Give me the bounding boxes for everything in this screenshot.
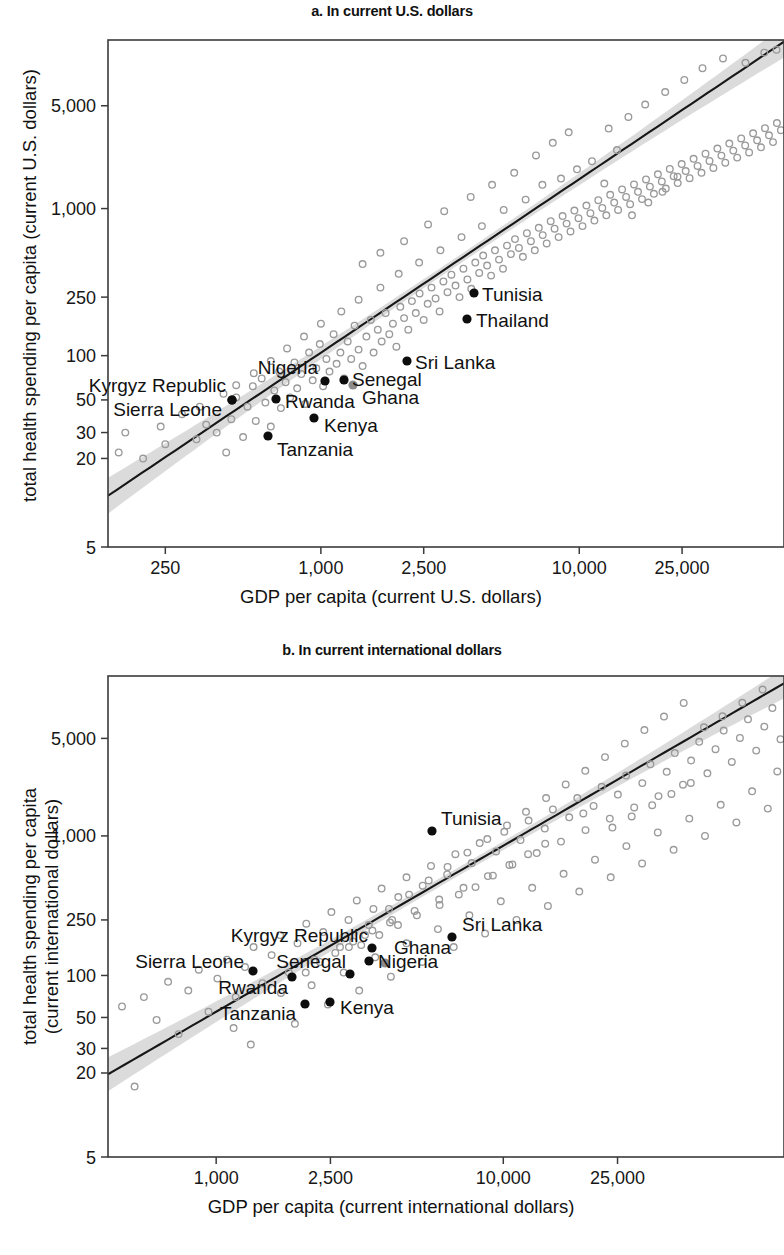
data-point — [639, 196, 646, 203]
data-point — [460, 265, 467, 272]
data-point — [268, 423, 275, 430]
data-point — [686, 175, 693, 182]
y-tick-label: 250 — [66, 288, 96, 308]
data-point — [543, 795, 550, 802]
data-point — [699, 65, 706, 72]
data-point — [655, 829, 662, 836]
data-point — [488, 272, 495, 279]
data-point — [680, 700, 687, 707]
data-point — [706, 158, 713, 165]
data-point — [376, 932, 383, 939]
data-point — [386, 331, 393, 338]
data-point — [508, 251, 515, 258]
data-point — [472, 884, 479, 891]
data-point — [647, 183, 654, 190]
data-point — [730, 147, 737, 154]
data-point — [681, 77, 688, 84]
data-point — [476, 840, 483, 847]
data-point — [516, 245, 523, 252]
x-tick-label: 2,500 — [401, 558, 446, 578]
data-point — [580, 810, 587, 817]
data-point — [734, 154, 741, 161]
data-point — [253, 418, 260, 425]
data-point — [318, 320, 325, 327]
data-point — [533, 152, 540, 159]
data-point — [674, 180, 681, 187]
data-point — [484, 836, 491, 843]
point-label-rwanda: Rwanda — [218, 977, 288, 998]
data-point — [348, 356, 355, 363]
data-point — [355, 346, 362, 353]
point-labels: Sierra LeoneKyrgyz RepublicRwandaTanzani… — [89, 284, 549, 460]
x-axis: 1,0002,50010,00025,000 — [194, 1157, 645, 1188]
data-point — [539, 232, 546, 239]
highlighted-point-rwanda — [271, 394, 280, 403]
data-point — [529, 885, 536, 892]
data-point — [355, 296, 362, 303]
x-axis-title: GDP per capita (current U.S. dollars) — [240, 586, 542, 607]
data-point — [428, 284, 435, 291]
highlighted-point-kenya — [325, 997, 334, 1006]
data-point — [623, 843, 630, 850]
data-point — [428, 863, 435, 870]
highlighted-point-kyrgyz-republic — [227, 395, 236, 404]
data-point — [738, 135, 745, 142]
data-point — [479, 223, 486, 230]
y-axis-title-line-1: total health spending per capita — [19, 787, 40, 1045]
data-point — [377, 284, 384, 291]
y-tick-label: 1,000 — [51, 199, 96, 219]
data-point — [458, 234, 465, 241]
data-point — [583, 202, 590, 209]
data-point — [401, 315, 408, 322]
data-point — [533, 850, 540, 857]
point-label-sri-lanka: Sri Lanka — [462, 914, 543, 935]
y-axis-title: total health spending per capita (curren… — [19, 69, 40, 502]
data-point — [774, 120, 781, 127]
data-point — [670, 847, 677, 854]
data-point — [464, 276, 471, 283]
data-point — [560, 871, 567, 878]
data-point — [467, 194, 474, 201]
data-point — [777, 736, 784, 743]
data-point — [729, 759, 736, 766]
highlighted-point-sri-lanka — [402, 356, 411, 365]
data-point — [710, 165, 717, 172]
data-point — [694, 163, 701, 170]
data-point — [230, 1025, 237, 1032]
data-point — [498, 898, 505, 905]
y-tick-label: 250 — [66, 910, 96, 930]
y-tick-label: 5 — [86, 538, 96, 558]
data-point — [425, 877, 432, 884]
data-point — [165, 979, 172, 986]
data-point — [550, 806, 557, 813]
y-axis-title: total health spending per capita(current… — [19, 787, 62, 1045]
data-point — [251, 370, 258, 377]
data-point — [555, 234, 562, 241]
data-point — [141, 994, 148, 1001]
data-point — [726, 140, 733, 147]
panel-a-plot: Sierra LeoneKyrgyz RepublicRwandaTanzani… — [0, 0, 784, 620]
data-point — [369, 927, 376, 934]
panel-b-plot: Sierra LeoneRwandaTanzaniaKenyaSenegalNi… — [0, 620, 784, 1255]
data-point — [496, 256, 503, 263]
data-point — [649, 802, 656, 809]
highlighted-point-rwanda — [287, 972, 296, 981]
data-point — [393, 343, 400, 350]
data-point — [122, 429, 129, 436]
data-point — [308, 982, 315, 989]
data-point — [720, 55, 727, 62]
plot-interior — [108, 26, 784, 514]
highlighted-point-senegal — [345, 969, 354, 978]
data-point — [576, 888, 583, 895]
data-point — [754, 137, 761, 144]
data-point — [323, 356, 330, 363]
point-label-tanzania: Tanzania — [220, 1003, 296, 1024]
data-point — [615, 791, 622, 798]
x-tick-label: 1,000 — [194, 1168, 239, 1188]
data-point — [338, 308, 345, 315]
data-point — [749, 788, 756, 795]
data-point — [420, 317, 427, 324]
data-point — [682, 168, 689, 175]
data-point — [686, 815, 693, 822]
data-point — [363, 333, 370, 340]
